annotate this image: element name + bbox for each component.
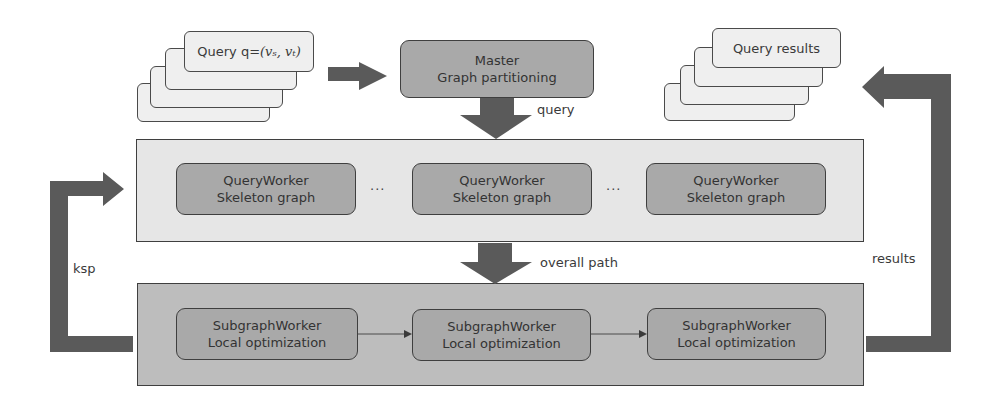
query-worker-title: QueryWorker xyxy=(459,172,544,189)
query-worker-1: QueryWorker Skeleton graph xyxy=(176,163,356,215)
query-worker-title: QueryWorker xyxy=(223,172,308,189)
arrow-right-icon xyxy=(328,62,387,90)
master-title: Master xyxy=(475,52,519,69)
master-subtitle: Graph partitioning xyxy=(437,69,556,86)
subgraph-worker-title: SubgraphWorker xyxy=(682,317,791,334)
query-card: Query q=(𝑣ₛ, 𝑣ₜ) xyxy=(184,31,314,72)
query-label: Query q= xyxy=(197,44,260,59)
subgraph-worker-2: SubgraphWorker Local optimization xyxy=(412,309,591,361)
subgraph-worker-subtitle: Local optimization xyxy=(442,335,561,352)
subgraph-worker-title: SubgraphWorker xyxy=(447,318,556,335)
query-worker-subtitle: Skeleton graph xyxy=(453,189,551,206)
query-worker-subtitle: Skeleton graph xyxy=(217,189,315,206)
subgraph-worker-3: SubgraphWorker Local optimization xyxy=(647,308,826,360)
query-worker-title: QueryWorker xyxy=(693,172,778,189)
query-arrow-label: query xyxy=(537,102,575,117)
query-math: (𝑣ₛ, 𝑣ₜ) xyxy=(260,44,301,59)
arrow-down-icon xyxy=(460,98,532,139)
results-loop-arrow-icon xyxy=(862,66,951,352)
query-worker-2: QueryWorker Skeleton graph xyxy=(412,163,592,215)
results-label-arrow: results xyxy=(872,251,916,266)
results-card: Query results xyxy=(712,28,841,68)
ellipsis-1: ... xyxy=(370,178,385,193)
overall-path-label: overall path xyxy=(540,255,618,270)
subgraph-worker-title: SubgraphWorker xyxy=(213,317,322,334)
query-worker-subtitle: Skeleton graph xyxy=(687,189,785,206)
arrow-down-icon xyxy=(460,243,532,284)
results-label: Query results xyxy=(733,41,820,56)
query-worker-3: QueryWorker Skeleton graph xyxy=(646,163,826,215)
subgraph-worker-1: SubgraphWorker Local optimization xyxy=(176,308,358,360)
ellipsis-2: ... xyxy=(606,178,621,193)
subgraph-worker-subtitle: Local optimization xyxy=(677,334,796,351)
ksp-label: ksp xyxy=(73,261,96,276)
master-node: Master Graph partitioning xyxy=(400,40,594,98)
subgraph-worker-subtitle: Local optimization xyxy=(208,334,327,351)
